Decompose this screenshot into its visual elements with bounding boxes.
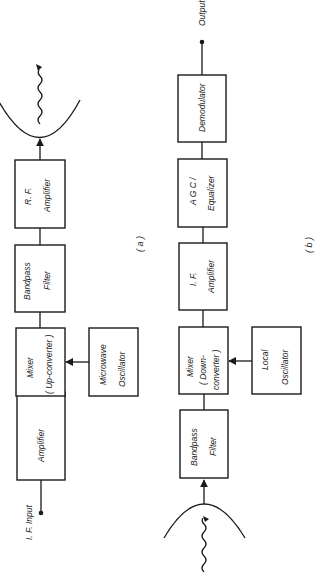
receive-antenna-dish-icon: [164, 504, 245, 572]
bandpass-filter-block-b: Bandpass Filter: [180, 410, 228, 478]
rf-amplifier-block: R. F. Amplifier: [15, 160, 65, 228]
caption-a: ( a ): [135, 236, 145, 252]
amplifier-block: Amplifier: [17, 392, 65, 480]
svg-text:Amplifier: Amplifier: [36, 428, 46, 463]
svg-text:Amplifier: Amplifier: [42, 178, 52, 213]
agc-equalizer-block: A G C / Equalizer: [178, 159, 227, 227]
svg-text:Amplifier: Amplifier: [206, 259, 216, 294]
if-amplifier-block: I. F. Amplifier: [179, 243, 227, 310]
svg-text:Equalizer: Equalizer: [206, 174, 216, 211]
mixer-upconverter-block: Mixer ( Up-converter ): [16, 328, 65, 396]
svg-text:Bandpass: Bandpass: [189, 427, 199, 466]
svg-text:I. F.: I. F.: [188, 272, 198, 286]
svg-text:Mixer: Mixer: [185, 355, 195, 377]
caption-b: ( b ): [304, 237, 314, 253]
mixer-downconverter-block: Mixer ( Down- converter ): [179, 327, 228, 394]
svg-text:A G C /: A G C /: [188, 176, 198, 206]
transmitter-diagram: I. F. Input Amplifier Mixer ( Up-convert…: [0, 64, 145, 540]
local-oscillator-block: Local Oscillator: [252, 327, 301, 394]
svg-text:converter ): converter ): [211, 349, 221, 390]
svg-text:Filter: Filter: [208, 436, 218, 456]
output-terminal: [200, 40, 205, 45]
microwave-oscillator-block: Microwave Oscillator: [89, 328, 138, 396]
svg-text:Demodulator: Demodulator: [197, 82, 207, 132]
block-diagram: I. F. Input Amplifier Mixer ( Up-convert…: [0, 0, 325, 572]
if-input-label: I. F. Input: [24, 505, 34, 540]
svg-text:( Down-: ( Down-: [198, 355, 208, 385]
demodulator-block: Demodulator: [178, 75, 226, 142]
svg-text:Oscillator: Oscillator: [117, 350, 127, 387]
svg-text:Local: Local: [260, 349, 270, 370]
svg-text:Bandpass: Bandpass: [22, 261, 32, 300]
svg-text:R. F.: R. F.: [23, 188, 33, 205]
svg-text:Filter: Filter: [42, 270, 52, 290]
transmit-antenna-dish-icon: [0, 64, 80, 138]
svg-text:Mixer: Mixer: [25, 356, 35, 378]
svg-text:( Up-converter ): ( Up-converter ): [44, 334, 54, 394]
output-label: Output: [197, 0, 207, 26]
svg-text:Oscillator: Oscillator: [280, 348, 290, 385]
receiver-diagram: Bandpass Filter Mixer ( Down- converter …: [164, 0, 314, 572]
bandpass-filter-block: Bandpass Filter: [15, 245, 65, 312]
svg-text:Microwave: Microwave: [98, 344, 108, 385]
